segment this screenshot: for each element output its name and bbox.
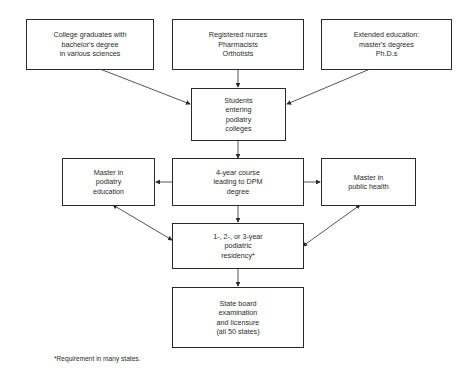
node-residency: 1-, 2-, or 3-year podiatric residency* [172, 223, 304, 269]
node-college-graduates: College graduates with bachelor's degree… [26, 19, 154, 70]
node-extended-education: Extended education: master's degrees Ph.… [321, 19, 452, 70]
footnote: *Requirement in many states. [54, 355, 141, 362]
node-state-board: State board examination and licensure (a… [172, 287, 304, 348]
node-master-podiatry-education: Master in podiatry education [62, 158, 155, 206]
node-students-entering: Students entering podiatry colleges [191, 88, 286, 141]
node-four-year-course: 4-year course leading to DPM degree [172, 158, 304, 206]
node-master-public-health: Master in public health [321, 158, 416, 206]
node-health-professionals: Registered nurses Pharmacists Orthotists [172, 19, 304, 70]
